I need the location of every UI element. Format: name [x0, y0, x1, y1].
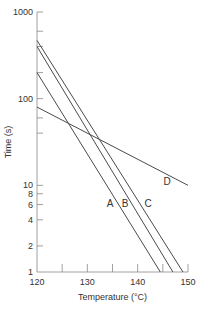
y-tick-label: 1 — [28, 267, 33, 277]
series-line-a — [37, 73, 160, 272]
x-tick-label: 130 — [80, 277, 95, 287]
series-line-d — [37, 107, 188, 185]
x-tick-label: 150 — [180, 277, 195, 287]
x-axis-label: Temperature (°C) — [78, 292, 147, 302]
y-tick-label: 4 — [28, 215, 33, 225]
x-tick-label: 120 — [29, 277, 44, 287]
chart-svg: 12468101001000120130140150Temperature (°… — [0, 0, 206, 311]
y-tick-label: 1000 — [13, 7, 33, 17]
y-tick-label: 10 — [23, 180, 33, 190]
y-tick-label: 2 — [28, 241, 33, 251]
series-line-b — [37, 46, 173, 272]
chart: 12468101001000120130140150Temperature (°… — [0, 0, 206, 311]
axes — [37, 12, 188, 272]
series-label-c: C — [144, 198, 151, 209]
y-tick-label: 6 — [28, 200, 33, 210]
series-line-c — [37, 40, 183, 272]
series-label-d: D — [163, 176, 170, 187]
x-tick-label: 140 — [130, 277, 145, 287]
series-label-b: B — [122, 198, 129, 209]
series-label-a: A — [107, 198, 114, 209]
labels: 12468101001000120130140150Temperature (°… — [3, 7, 196, 302]
y-tick-label: 100 — [18, 94, 33, 104]
y-axis-label: Time (s) — [3, 126, 13, 159]
series-lines — [37, 40, 188, 272]
